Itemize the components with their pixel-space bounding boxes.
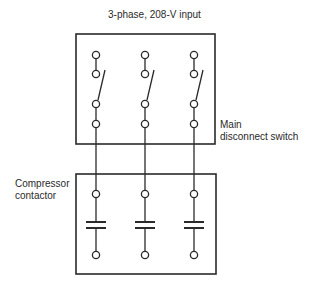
phase-3-switch-output-terminal	[190, 120, 197, 127]
phase-2-input-terminal	[141, 51, 148, 58]
phase-1-contactor-load-terminal	[92, 251, 99, 258]
phase-2-switch-output-terminal	[141, 120, 148, 127]
phase-1-switch-bottom-contact	[92, 100, 99, 107]
phase-1-input-terminal	[92, 51, 99, 58]
phase-2-contactor-load-terminal	[141, 251, 148, 258]
phase-3-contactor-line-terminal	[190, 190, 197, 197]
phase-2-contactor-line-terminal	[141, 190, 148, 197]
phase-3-switch-top-contact	[190, 70, 197, 77]
phase-3-contactor-load-terminal	[190, 251, 197, 258]
phase-2-switch-bottom-contact	[141, 100, 148, 107]
phase-2-switch-top-contact	[141, 70, 148, 77]
phase-1-switch-top-contact	[92, 70, 99, 77]
phase-1-contactor-line-terminal	[92, 190, 99, 197]
phase-3-switch-bottom-contact	[190, 100, 197, 107]
phase-1-switch-output-terminal	[92, 120, 99, 127]
phase-3-input-terminal	[190, 51, 197, 58]
wiring-diagram	[0, 0, 316, 289]
